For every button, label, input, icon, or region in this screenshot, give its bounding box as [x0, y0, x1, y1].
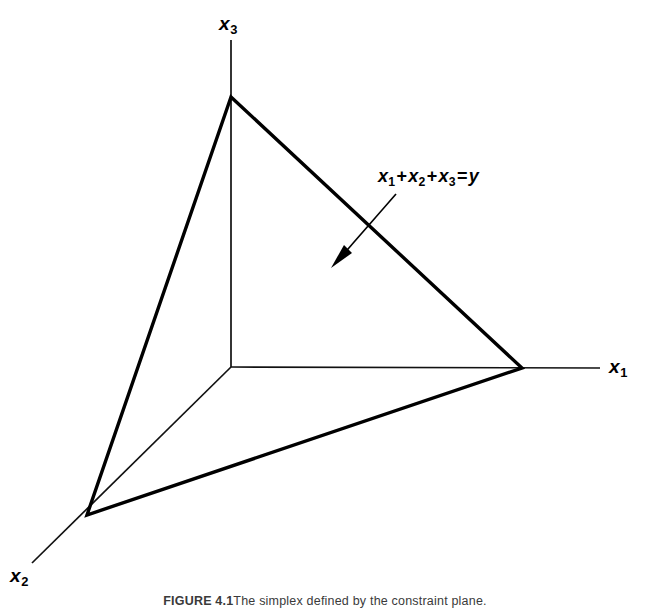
- equation-term2: x: [408, 166, 418, 186]
- coordinate-axes: [32, 40, 600, 563]
- equation-term3-subscript: 3: [449, 175, 456, 189]
- constraint-equation-label: x1+x2+x3=y: [378, 166, 479, 187]
- equation-term1-subscript: 1: [388, 175, 395, 189]
- axis-label-x1-base: x: [609, 356, 620, 377]
- figure-caption-number: FIGURE 4.1: [163, 594, 233, 608]
- axis-label-x2-subscript: 2: [21, 574, 28, 589]
- axis-label-x3-base: x: [219, 13, 230, 34]
- axis-label-x1-subscript: 1: [620, 365, 627, 380]
- equation-equals-sign: =: [456, 166, 469, 186]
- plane-triangle-outline: [87, 97, 522, 515]
- axis-x2-line: [32, 367, 231, 563]
- axis-x1-line: [231, 367, 600, 368]
- equation-rhs: y: [469, 166, 479, 186]
- axis-label-x2: x2: [10, 566, 28, 585]
- equation-term2-subscript: 2: [419, 175, 426, 189]
- axis-label-x3-subscript: 3: [230, 22, 237, 37]
- equation-term3: x: [438, 166, 448, 186]
- pointer-shaft: [341, 194, 396, 257]
- axis-label-x1: x1: [609, 357, 627, 376]
- axis-label-x3: x3: [219, 14, 237, 33]
- axis-label-x2-base: x: [10, 565, 21, 586]
- figure-caption-text: The simplex defined by the constraint pl…: [233, 594, 486, 608]
- figure-caption: FIGURE 4.1The simplex defined by the con…: [0, 594, 650, 608]
- equation-term1: x: [378, 166, 388, 186]
- annotation-pointer: [331, 194, 396, 268]
- constraint-plane-triangle: [87, 97, 522, 515]
- equation-plus-1: +: [395, 166, 408, 186]
- equation-plus-2: +: [426, 166, 439, 186]
